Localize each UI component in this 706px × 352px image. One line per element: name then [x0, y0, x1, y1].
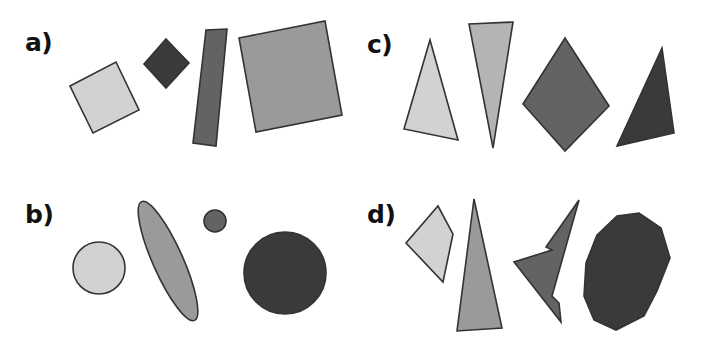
- shape-a-3-rectangle: [193, 29, 227, 146]
- figure-canvas: a) b) c) d): [0, 0, 706, 352]
- shape-a-4-square: [239, 21, 342, 132]
- shape-c-2-triangle: [469, 22, 513, 148]
- shape-d-3-arrow-polygon: [514, 200, 579, 322]
- shape-b-2-ellipse: [128, 196, 208, 327]
- shape-a-2-diamond: [144, 39, 189, 88]
- shape-d-4-blob-polygon: [584, 213, 670, 330]
- shape-b-1-circle: [73, 242, 125, 294]
- shape-b-3-circle: [204, 210, 226, 232]
- shape-b-4-circle: [244, 232, 326, 314]
- shape-d-2-triangle: [457, 199, 502, 331]
- shape-d-1-quadrilateral: [406, 206, 453, 282]
- shape-c-4-triangle: [617, 48, 674, 146]
- shape-c-3-diamond: [523, 38, 609, 151]
- shape-c-1-triangle: [404, 40, 458, 140]
- shape-a-1-square: [70, 62, 139, 133]
- shape-layer: [0, 0, 706, 352]
